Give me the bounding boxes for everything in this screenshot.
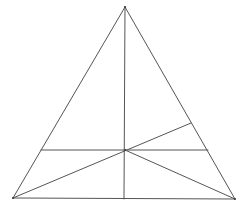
triangle-right-side: [125, 7, 235, 199]
vertex-center: [124, 149, 126, 151]
vertical-median: [124, 7, 125, 199]
vertex-bottom-right: [234, 198, 236, 200]
vertex-bottom-left: [12, 197, 14, 199]
triangle-diagram: [0, 0, 246, 213]
triangle-left-side: [13, 7, 125, 198]
diagonal-bottom-left-to-right-side: [13, 123, 191, 198]
triangle-figure: [0, 0, 246, 213]
vertex-apex: [124, 6, 126, 8]
diagonal-center-to-bottom-right: [125, 150, 235, 199]
